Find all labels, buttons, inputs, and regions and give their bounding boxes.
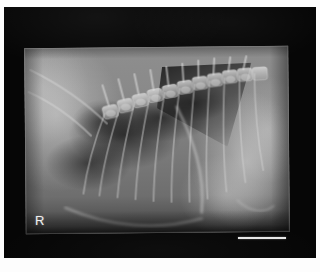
laterality-marker-right: R xyxy=(35,212,51,230)
skeletal-overlay xyxy=(24,46,290,234)
exposed-xray-field xyxy=(24,46,290,234)
abdominal-viscera xyxy=(238,200,274,211)
sternum xyxy=(66,207,202,227)
scale-bar xyxy=(238,237,286,239)
scapula-edge xyxy=(28,69,107,136)
film-sheet: R xyxy=(4,7,316,258)
radiograph-figure: R xyxy=(0,0,320,272)
